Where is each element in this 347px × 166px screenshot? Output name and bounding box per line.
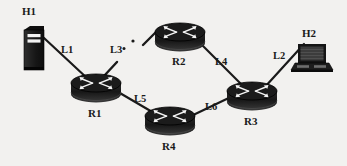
node-label-R2: R2	[172, 56, 185, 67]
link-label-L5: L5	[134, 93, 146, 104]
node-icon-R1[interactable]	[71, 74, 121, 103]
node-icon-H2[interactable]	[291, 44, 333, 72]
link-label-L1: L1	[61, 44, 73, 55]
node-label-R1: R1	[88, 108, 101, 119]
node-icon-R2[interactable]	[155, 23, 205, 52]
network-topology-diagram: H1 H2 R1 R2 R3 R4 L1 L2 L3 L4 L5 L6	[0, 0, 347, 166]
node-icon-H1[interactable]	[24, 26, 44, 70]
link-label-L4: L4	[215, 56, 227, 67]
link-label-L6: L6	[205, 101, 217, 112]
node-label-R4: R4	[162, 141, 175, 152]
node-icon-R3[interactable]	[227, 82, 277, 111]
link-break-dot	[131, 39, 134, 42]
link-label-L2: L2	[273, 50, 285, 61]
node-label-H2: H2	[302, 28, 316, 39]
drive-bay-slot	[28, 39, 41, 42]
link-break-dot	[123, 47, 126, 50]
node-label-R3: R3	[244, 116, 257, 127]
node-icon-R4[interactable]	[145, 107, 195, 136]
node-label-H1: H1	[22, 6, 36, 17]
link-label-L3: L3	[110, 44, 122, 55]
drive-bay-slot	[28, 34, 41, 37]
